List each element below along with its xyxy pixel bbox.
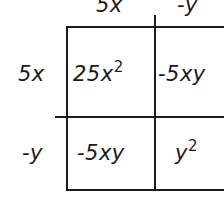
column-header-5x: 5x: [96, 0, 123, 16]
cell-base: -5xy: [77, 141, 125, 165]
cell-y-squared: y2: [175, 143, 198, 164]
column-header-neg-y: -y: [177, 0, 198, 16]
cell-neg-5xy-bottom: -5xy: [77, 143, 125, 164]
row-header-5x: 5x: [18, 64, 45, 85]
grid-bottom-border: [66, 189, 224, 191]
row-header-neg-y: -y: [22, 143, 43, 164]
grid-middle-horizontal: [55, 116, 224, 118]
cell-base: y: [175, 141, 188, 165]
cell-25x-squared: 25x2: [73, 64, 124, 85]
cell-exponent: 2: [188, 137, 198, 155]
grid-top-border: [66, 26, 224, 28]
grid-middle-vertical: [154, 15, 156, 191]
cell-base: 25x: [73, 62, 114, 86]
grid-left-border: [66, 26, 68, 191]
cell-neg-5xy-top: -5xy: [158, 64, 206, 85]
cell-base: -5xy: [158, 62, 206, 86]
cell-exponent: 2: [114, 58, 124, 76]
